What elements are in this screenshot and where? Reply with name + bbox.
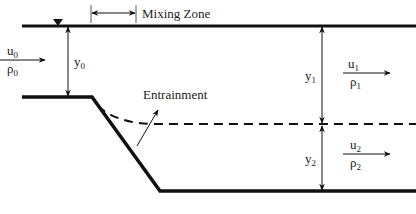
rho2-label: ρ2: [350, 155, 361, 172]
u2-label: u2: [350, 137, 361, 154]
density-interface-dashed: [98, 106, 416, 124]
u1-label: u1: [348, 56, 359, 73]
entrainment-arrow: [137, 110, 158, 146]
u0-label: u0: [7, 43, 19, 60]
y2-label: y2: [305, 151, 316, 168]
mixing-zone-diagram: Mixing Zone u0 ρ0 y0 Entrainment y1 y2 u…: [0, 0, 416, 214]
rho0-label: ρ0: [7, 61, 19, 78]
entrainment-label: Entrainment: [143, 87, 208, 102]
y1-label: y1: [305, 68, 316, 85]
y0-label: y0: [74, 54, 86, 71]
mixing-zone-label: Mixing Zone: [142, 6, 210, 21]
rho1-label: ρ1: [350, 74, 361, 91]
